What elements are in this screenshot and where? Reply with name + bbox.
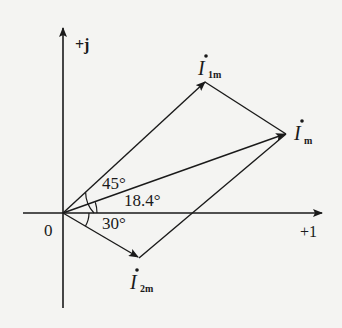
real-axis-label: +1	[300, 223, 317, 240]
phasor-Im	[63, 134, 285, 213]
label-I1m-symbol: I	[197, 57, 206, 79]
angle-arc-30	[86, 213, 90, 226]
label-I2m-symbol: I	[129, 271, 138, 293]
angle-label-45: 45°	[102, 174, 126, 193]
parallelogram-edge-upper	[205, 82, 286, 134]
parallelogram-edge-lower	[139, 134, 286, 258]
phasor-diagram: +j +1 0 45° 18.4° 30° I 1m I m I 2m	[0, 0, 342, 328]
angle-label-18: 18.4°	[124, 191, 161, 210]
phasor-I2m	[63, 213, 138, 257]
phasor-dot-Im	[300, 119, 304, 123]
label-I1m: I 1m	[197, 54, 222, 80]
label-Im-subscript: m	[304, 135, 313, 146]
label-Im: I m	[293, 119, 313, 146]
angle-label-30: 30°	[102, 214, 126, 233]
label-I2m-subscript: 2m	[140, 283, 154, 294]
imaginary-axis-label: +j	[75, 36, 89, 54]
label-I1m-subscript: 1m	[208, 69, 222, 80]
origin-label: 0	[44, 221, 53, 240]
phasor-dot-I1m	[204, 54, 208, 58]
label-Im-symbol: I	[293, 122, 302, 144]
angle-arc-18	[95, 202, 97, 213]
label-I2m: I 2m	[129, 268, 154, 294]
